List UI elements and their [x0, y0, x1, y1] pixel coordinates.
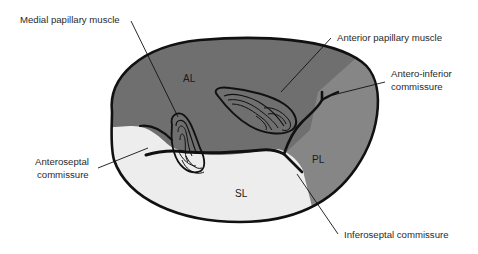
label-antero-inferior-commissure-2: commissure [391, 81, 443, 92]
label-inferoseptal-commissure: Inferoseptal commissure [344, 229, 449, 240]
label-antero-inferior-commissure-1: Antero-inferior [391, 68, 453, 79]
label-medial-papillary-muscle: Medial papillary muscle [20, 14, 120, 25]
region-label-al: AL [183, 73, 196, 84]
region-label-pl: PL [312, 154, 325, 165]
valve-annulus [100, 30, 400, 230]
label-anteroseptal-commissure-1: Anteroseptal [35, 156, 89, 167]
label-anteroseptal-commissure-2: commissure [37, 169, 89, 180]
valve-diagram: AL PL SL Medial papillary muscle Anterio… [0, 0, 478, 254]
label-anterior-papillary-muscle: Anterior papillary muscle [337, 32, 442, 43]
region-label-sl: SL [235, 188, 248, 199]
